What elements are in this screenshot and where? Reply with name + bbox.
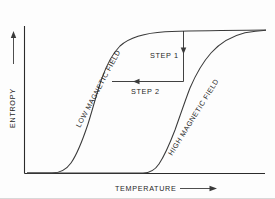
x-axis-arrow-head — [210, 186, 218, 192]
step-1-label: STEP 1 — [150, 51, 179, 60]
step-1-arrowhead-down — [181, 48, 187, 55]
y-axis-label: ENTROPY — [8, 88, 17, 128]
x-axis-label: TEMPERATURE — [115, 184, 176, 193]
entropy-temperature-figure: ENTROPY TEMPERATURE LOW MAGNETIC FIELD H… — [0, 0, 275, 199]
low-magnetic-field-label: LOW MAGNETIC FIELD — [75, 49, 123, 129]
step-2-arrowhead-left — [133, 79, 140, 84]
high-magnetic-field-label: HIGH MAGNETIC FIELD — [167, 78, 221, 157]
plot-area: ENTROPY TEMPERATURE LOW MAGNETIC FIELD H… — [0, 0, 275, 199]
step-2-label: STEP 2 — [131, 87, 160, 96]
low-magnetic-field-curve — [27, 30, 266, 173]
high-magnetic-field-curve — [27, 30, 266, 173]
y-axis-arrow-head — [11, 31, 16, 38]
